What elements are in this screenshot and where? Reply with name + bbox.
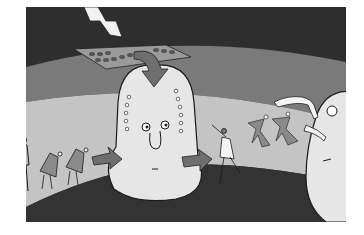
right-head-eye — [327, 106, 337, 116]
illustration-frame — [26, 7, 346, 222]
cartoon-illustration — [26, 7, 346, 222]
